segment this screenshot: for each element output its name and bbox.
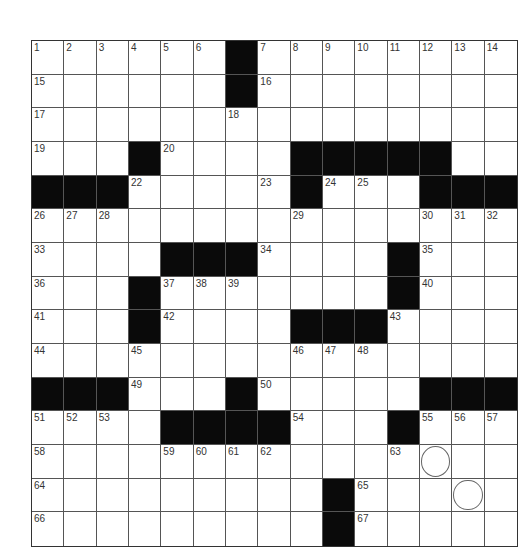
grid-cell[interactable] — [97, 75, 129, 109]
grid-cell[interactable]: 10 — [355, 41, 387, 75]
grid-cell[interactable] — [485, 479, 517, 513]
grid-cell[interactable]: 64 — [32, 479, 64, 513]
grid-cell[interactable]: 47 — [323, 344, 355, 378]
grid-cell[interactable]: 1 — [32, 41, 64, 75]
grid-cell[interactable]: 45 — [129, 344, 161, 378]
grid-cell[interactable] — [452, 75, 484, 109]
grid-cell[interactable] — [161, 479, 193, 513]
grid-cell[interactable]: 63 — [388, 445, 420, 479]
grid-cell[interactable] — [97, 243, 129, 277]
grid-cell[interactable] — [388, 209, 420, 243]
grid-cell[interactable] — [485, 512, 517, 546]
grid-cell[interactable] — [452, 512, 484, 546]
grid-cell[interactable] — [194, 479, 226, 513]
grid-cell[interactable] — [129, 75, 161, 109]
grid-cell[interactable] — [388, 176, 420, 210]
grid-cell[interactable] — [323, 277, 355, 311]
grid-cell[interactable]: 34 — [258, 243, 290, 277]
grid-cell[interactable]: 38 — [194, 277, 226, 311]
grid-cell[interactable]: 35 — [420, 243, 452, 277]
grid-cell[interactable] — [97, 142, 129, 176]
grid-cell[interactable]: 57 — [485, 411, 517, 445]
grid-cell[interactable] — [194, 108, 226, 142]
grid-cell[interactable] — [355, 243, 387, 277]
grid-cell[interactable] — [97, 310, 129, 344]
grid-cell[interactable]: 33 — [32, 243, 64, 277]
grid-cell[interactable] — [452, 243, 484, 277]
grid-cell[interactable] — [194, 378, 226, 412]
grid-cell[interactable]: 29 — [291, 209, 323, 243]
grid-cell[interactable] — [64, 344, 96, 378]
grid-cell[interactable] — [452, 310, 484, 344]
grid-cell[interactable]: 55 — [420, 411, 452, 445]
grid-cell[interactable] — [64, 142, 96, 176]
grid-cell[interactable] — [291, 277, 323, 311]
grid-cell[interactable] — [291, 512, 323, 546]
grid-cell[interactable]: 9 — [323, 41, 355, 75]
grid-cell[interactable] — [161, 209, 193, 243]
grid-cell[interactable] — [291, 479, 323, 513]
grid-cell[interactable] — [452, 142, 484, 176]
grid-cell[interactable] — [97, 277, 129, 311]
grid-cell[interactable]: 58 — [32, 445, 64, 479]
grid-cell[interactable] — [194, 344, 226, 378]
grid-cell[interactable]: 54 — [291, 411, 323, 445]
grid-cell[interactable] — [258, 512, 290, 546]
grid-cell[interactable] — [226, 209, 258, 243]
grid-cell[interactable]: 37 — [161, 277, 193, 311]
grid-cell[interactable] — [388, 378, 420, 412]
grid-cell[interactable] — [64, 310, 96, 344]
grid-cell[interactable] — [420, 310, 452, 344]
grid-cell[interactable] — [64, 108, 96, 142]
grid-cell[interactable] — [291, 243, 323, 277]
grid-cell[interactable]: 32 — [485, 209, 517, 243]
grid-cell[interactable]: 60 — [194, 445, 226, 479]
grid-cell[interactable]: 31 — [452, 209, 484, 243]
grid-cell[interactable] — [97, 512, 129, 546]
grid-cell[interactable]: 56 — [452, 411, 484, 445]
grid-cell[interactable]: 13 — [452, 41, 484, 75]
grid-cell[interactable] — [420, 75, 452, 109]
grid-cell[interactable]: 12 — [420, 41, 452, 75]
grid-cell[interactable]: 46 — [291, 344, 323, 378]
grid-cell[interactable]: 24 — [323, 176, 355, 210]
grid-cell[interactable] — [485, 142, 517, 176]
grid-cell[interactable] — [323, 378, 355, 412]
grid-cell[interactable] — [291, 108, 323, 142]
grid-cell[interactable]: 11 — [388, 41, 420, 75]
grid-cell[interactable] — [161, 108, 193, 142]
grid-cell[interactable]: 49 — [129, 378, 161, 412]
grid-cell[interactable]: 2 — [64, 41, 96, 75]
grid-cell[interactable] — [194, 209, 226, 243]
grid-cell[interactable] — [485, 108, 517, 142]
grid-cell[interactable]: 50 — [258, 378, 290, 412]
grid-cell[interactable] — [161, 512, 193, 546]
grid-cell[interactable] — [226, 310, 258, 344]
grid-cell[interactable] — [355, 108, 387, 142]
grid-cell[interactable] — [420, 445, 452, 479]
grid-cell[interactable]: 3 — [97, 41, 129, 75]
grid-cell[interactable] — [323, 209, 355, 243]
grid-cell[interactable]: 53 — [97, 411, 129, 445]
grid-cell[interactable]: 59 — [161, 445, 193, 479]
grid-cell[interactable] — [226, 512, 258, 546]
grid-cell[interactable] — [129, 512, 161, 546]
grid-cell[interactable] — [485, 344, 517, 378]
grid-cell[interactable]: 40 — [420, 277, 452, 311]
grid-cell[interactable] — [388, 108, 420, 142]
grid-cell[interactable]: 30 — [420, 209, 452, 243]
grid-cell[interactable] — [420, 108, 452, 142]
grid-cell[interactable] — [194, 176, 226, 210]
grid-cell[interactable] — [355, 209, 387, 243]
grid-cell[interactable] — [323, 75, 355, 109]
grid-cell[interactable] — [161, 176, 193, 210]
grid-cell[interactable]: 7 — [258, 41, 290, 75]
grid-cell[interactable]: 66 — [32, 512, 64, 546]
grid-cell[interactable] — [452, 108, 484, 142]
grid-cell[interactable] — [258, 277, 290, 311]
grid-cell[interactable]: 41 — [32, 310, 64, 344]
grid-cell[interactable] — [355, 277, 387, 311]
grid-cell[interactable] — [194, 75, 226, 109]
grid-cell[interactable]: 62 — [258, 445, 290, 479]
grid-cell[interactable]: 8 — [291, 41, 323, 75]
